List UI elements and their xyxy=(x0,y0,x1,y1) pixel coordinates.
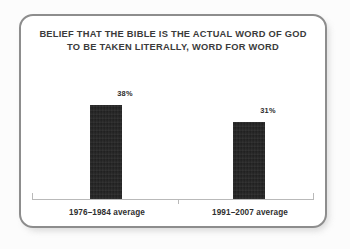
bar-1991-2007 xyxy=(233,122,265,199)
category-label-1976-1984: 1976–1984 average xyxy=(37,208,177,217)
bar-value-label: 38% xyxy=(90,89,160,98)
chart-panel: BELIEF THAT THE BIBLE IS THE ACTUAL WORD… xyxy=(19,14,327,228)
x-axis-line xyxy=(32,199,314,200)
x-axis-tick-center xyxy=(178,199,179,204)
bar-1976-1984 xyxy=(90,105,122,199)
bar-value-label: 31% xyxy=(233,106,303,115)
category-label-1991-2007: 1991–2007 average xyxy=(180,208,320,217)
x-axis-tick-left xyxy=(32,193,33,200)
x-axis-tick-right xyxy=(313,193,314,200)
plot-area: 38% 31% 1976–1984 average 1991–2007 aver… xyxy=(21,16,325,226)
